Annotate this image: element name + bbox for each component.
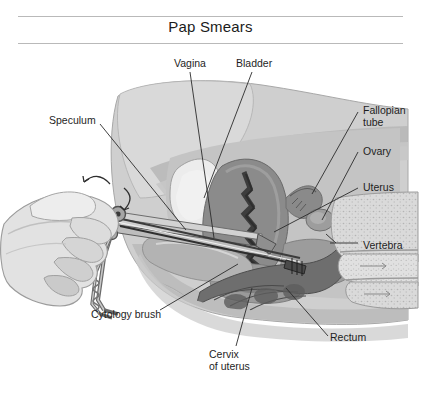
title-rule-top — [18, 16, 403, 17]
label-fallopian-tube: Fallopian tube — [363, 104, 406, 128]
label-ovary: Ovary — [363, 145, 391, 157]
label-cytology-brush: Cytology brush — [91, 308, 161, 320]
label-vertebra: Vertebra — [363, 239, 403, 251]
label-vagina: Vagina — [174, 57, 206, 69]
label-bladder: Bladder — [236, 57, 272, 69]
title-rule-bottom — [18, 43, 403, 44]
label-rectum: Rectum — [330, 331, 366, 343]
ovary-organ — [306, 209, 334, 231]
label-speculum: Speculum — [49, 114, 96, 126]
label-uterus: Uterus — [363, 181, 394, 193]
diagram-page: Pap Smears — [0, 0, 421, 393]
label-cervix-of-uterus: Cervix of uterus — [209, 348, 250, 372]
page-title: Pap Smears — [0, 18, 421, 35]
